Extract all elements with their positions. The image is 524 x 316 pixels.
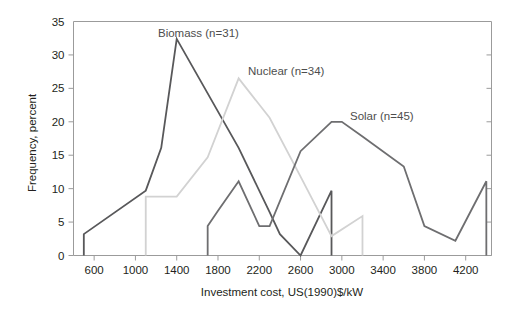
series-label: Solar (n=45) [350, 110, 414, 122]
y-tick-label: 0 [58, 250, 64, 262]
x-tick-label: 2200 [246, 264, 272, 276]
y-tick-label: 10 [52, 183, 65, 195]
x-tick-label: 1000 [123, 264, 149, 276]
series-label: Biomass (n=31) [158, 27, 239, 39]
x-tick-label: 3800 [412, 264, 438, 276]
x-tick-label: 3000 [329, 264, 355, 276]
x-tick-label: 2600 [288, 264, 314, 276]
y-axis-ticks [69, 55, 492, 256]
plot-border [74, 22, 492, 256]
series-line-solar [208, 122, 487, 256]
y-tick-label: 15 [52, 149, 65, 161]
y-tick-label: 35 [52, 16, 65, 28]
x-tick-label: 1400 [164, 264, 190, 276]
y-tick-label: 25 [52, 82, 65, 94]
x-tick-label: 600 [85, 264, 104, 276]
y-tick-label: 20 [52, 116, 65, 128]
x-axis-title: Investment cost, US(1990)$/kW [201, 286, 363, 298]
series-label: Nuclear (n=34) [248, 65, 325, 77]
chart-figure: 600100014001800220026003000340038004200 … [0, 0, 524, 316]
x-tick-label: 3400 [370, 264, 396, 276]
x-tick-label: 4200 [453, 264, 479, 276]
y-axis-title: Frequency, percent [26, 93, 38, 192]
x-axis-ticks [94, 256, 466, 261]
y-tick-label: 5 [58, 216, 64, 228]
chart-canvas: 600100014001800220026003000340038004200 … [0, 0, 524, 316]
y-tick-label: 30 [52, 49, 65, 61]
x-tick-label: 1800 [205, 264, 231, 276]
y-axis-tick-labels: 05101520253035 [52, 16, 65, 262]
series-line-nuclear [146, 78, 363, 255]
x-axis-tick-labels: 600100014001800220026003000340038004200 [85, 264, 479, 276]
axis-spines [74, 22, 492, 256]
